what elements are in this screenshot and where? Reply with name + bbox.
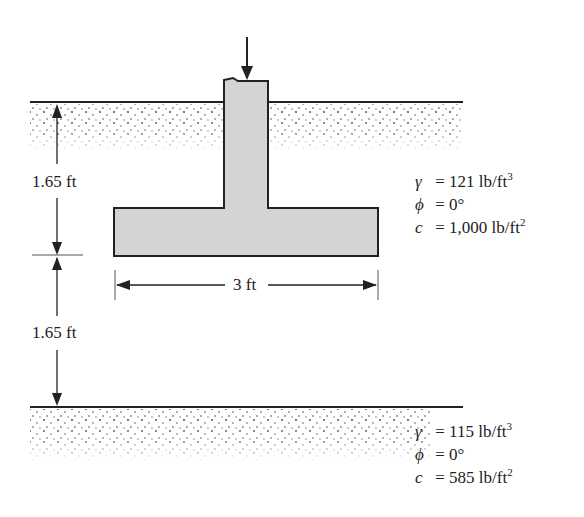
upper-cohesion: c = 1,000 lb/ft2 [415,216,525,239]
lower-cohesion: c = 585 lb/ft2 [415,466,513,489]
upper-phi: ϕ = 0° [415,193,525,216]
lower-gamma: γ = 115 lb/ft3 [415,420,513,443]
lower-layer-properties: γ = 115 lb/ft3 ϕ = 0° c = 585 lb/ft2 [415,420,513,489]
depth-label-bottom: 1.65 ft [32,323,76,343]
upper-gamma: γ = 121 lb/ft3 [415,170,525,193]
lower-soil-layer [30,409,430,463]
upper-layer-properties: γ = 121 lb/ft3 ϕ = 0° c = 1,000 lb/ft2 [415,170,525,239]
width-label: 3 ft [233,275,256,295]
depth-label-top: 1.65 ft [32,172,76,192]
lower-phi: ϕ = 0° [415,443,513,466]
